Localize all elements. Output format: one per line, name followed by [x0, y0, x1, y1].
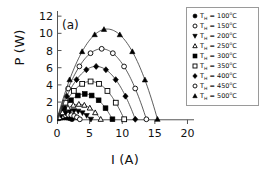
data-point-marker: [82, 92, 87, 97]
plot-svg: [57, 11, 194, 124]
data-point-marker: [79, 49, 84, 54]
x-axis-label: I (A): [55, 152, 195, 167]
legend-marker-icon: [190, 71, 200, 81]
y-tick-label: 2: [31, 97, 53, 108]
data-point-marker: [92, 32, 97, 37]
data-point-marker: [142, 77, 147, 82]
data-point-marker: [88, 79, 93, 84]
data-point-marker: [193, 94, 197, 98]
legend-marker-icon: [190, 21, 200, 31]
data-point-marker: [122, 117, 127, 122]
data-point-marker: [103, 67, 108, 73]
x-tick-label: 20: [176, 128, 198, 139]
y-tick-label: 10: [31, 28, 53, 39]
y-axis-tick-labels: 024681012: [31, 11, 53, 124]
data-point-marker: [94, 63, 99, 69]
data-point-marker: [96, 98, 101, 103]
legend-marker-icon: [190, 41, 200, 51]
data-point-marker: [123, 93, 128, 99]
data-point-marker: [103, 106, 108, 111]
y-axis-label: P (W): [12, 13, 27, 83]
data-point-marker: [133, 86, 138, 91]
data-point-marker: [193, 64, 197, 68]
legend-marker-icon: [190, 11, 200, 21]
data-point-marker: [87, 105, 92, 110]
y-tick-label: 12: [31, 11, 53, 22]
data-point-marker: [71, 88, 76, 93]
legend-marker-icon: [190, 61, 200, 71]
plot-area: [57, 11, 194, 124]
data-point-marker: [117, 32, 122, 37]
data-point-marker: [122, 64, 127, 69]
data-point-marker: [193, 14, 197, 18]
y-tick-label: 4: [31, 80, 53, 91]
data-point-marker: [193, 54, 197, 58]
x-tick-label: 10: [111, 128, 133, 139]
data-point-marker: [193, 84, 197, 88]
data-point-marker: [110, 117, 115, 122]
data-point-marker: [133, 116, 138, 122]
legend-marker-icon: [190, 81, 200, 91]
data-point-marker: [75, 93, 80, 98]
data-point-marker: [80, 81, 85, 86]
data-point-marker: [77, 64, 82, 69]
legend-item-8[interactable]: TH = 500oC: [190, 91, 256, 101]
data-point-marker: [193, 34, 197, 38]
data-point-marker: [99, 46, 104, 51]
data-point-marker: [97, 81, 102, 86]
x-tick-label: 0: [46, 128, 68, 139]
y-tick-label: 0: [31, 114, 53, 125]
legend-marker-icon: [190, 31, 200, 41]
data-point-marker: [105, 89, 110, 94]
x-tick-label: 5: [79, 128, 101, 139]
data-point-marker: [68, 98, 73, 103]
y-tick-label: 6: [31, 63, 53, 74]
legend-marker-icon: [190, 51, 200, 61]
data-point-marker: [155, 117, 160, 122]
data-point-marker: [84, 67, 89, 73]
data-point-marker: [193, 74, 197, 79]
data-point-marker: [88, 51, 93, 56]
data-point-marker: [67, 77, 72, 82]
data-point-marker: [76, 101, 81, 106]
data-point-marker: [130, 49, 135, 54]
data-point-marker: [77, 117, 82, 122]
data-point-marker: [110, 51, 115, 56]
data-point-marker: [89, 93, 94, 98]
y-tick-label: 8: [31, 46, 53, 57]
data-point-marker: [113, 100, 118, 105]
x-tick-label: 15: [144, 128, 166, 139]
data-point-marker: [193, 44, 197, 48]
legend-label: TH = 500oC: [200, 89, 237, 102]
legend-marker-icon: [190, 91, 200, 101]
legend: TH = 100oCTH = 150oCTH = 200oCTH = 250oC…: [186, 7, 259, 106]
figure-panel-a: P (W) I (A) (a) 024681012 05101520 TH = …: [0, 0, 261, 181]
x-axis-tick-labels: 05101520: [57, 128, 194, 142]
data-point-marker: [144, 117, 149, 122]
data-point-marker: [193, 24, 197, 28]
